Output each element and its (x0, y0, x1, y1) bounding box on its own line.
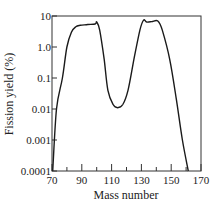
x-tick-label: 70 (47, 174, 59, 186)
fission-yield-chart: 101.00.10.010.0010.0001 7090110130150170… (0, 0, 221, 204)
x-tick-label: 150 (163, 174, 180, 186)
x-tick-label: 130 (133, 174, 150, 186)
y-tick-label: 0.01 (32, 103, 51, 115)
y-tick-label: 0.001 (26, 134, 51, 146)
x-tick-label: 170 (193, 174, 210, 186)
x-tick-label: 90 (76, 174, 88, 186)
y-tick-label: 10 (40, 10, 52, 22)
y-tick-label: 1.0 (37, 41, 51, 53)
fission-yield-curve (53, 20, 189, 171)
y-tick-label: 0.1 (37, 72, 51, 84)
x-tick-label: 110 (104, 174, 121, 186)
x-axis-label: Mass number (94, 188, 159, 202)
x-axis: 7090110130150170 (47, 164, 210, 186)
y-axis-label: Fission yield (%) (2, 53, 16, 136)
